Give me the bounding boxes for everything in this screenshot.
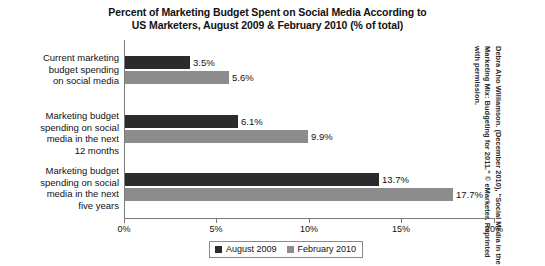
bar-value-august-2009-next-12-months: 6.1% <box>241 115 263 128</box>
bar-value-august-2009-next-five-years: 13.7% <box>382 173 409 186</box>
category-label-line: Marketing budget <box>4 110 119 122</box>
legend-swatch-icon-february-2010 <box>287 246 294 253</box>
x-tick-mark-10 <box>309 219 310 223</box>
chart-legend: August 2009 February 2010 <box>209 241 363 258</box>
bar-value-august-2009-current: 3.5% <box>193 56 215 69</box>
bar-february-2010-next-12-months <box>125 130 308 143</box>
x-tick-label-15: 15% <box>392 224 410 234</box>
x-tick-label-0: 0% <box>117 224 130 234</box>
category-label-line: five years <box>4 200 119 212</box>
legend-swatch-icon-august-2009 <box>215 246 222 253</box>
category-label-line: on social media <box>4 75 119 87</box>
source-note-line-3: with permission. <box>472 46 483 251</box>
source-attribution-note: Debra Aho Williamson. (December 2010), "… <box>469 46 503 251</box>
chart-title-line-1: Percent of Marketing Budget Spent on Soc… <box>40 6 495 19</box>
legend-label-august-2009: August 2009 <box>226 244 277 255</box>
bar-february-2010-current <box>125 71 229 84</box>
category-label-next-five-years: Marketing budget spending on social medi… <box>4 165 119 211</box>
source-note-line-1: Debra Aho Williamson. (December 2010), "… <box>493 46 504 251</box>
category-label-line: spending on social <box>4 122 119 134</box>
bar-february-2010-next-five-years <box>125 188 453 201</box>
category-label-line: 12 months <box>4 145 119 157</box>
category-label-line: Current marketing <box>4 52 119 64</box>
x-tick-label-5: 5% <box>209 224 222 234</box>
category-label-current-marketing: Current marketing budget spending on soc… <box>4 52 119 87</box>
category-label-next-12-months: Marketing budget spending on social medi… <box>4 110 119 156</box>
legend-label-february-2010: February 2010 <box>298 244 357 255</box>
bar-august-2009-next-12-months <box>125 115 238 128</box>
category-label-line: budget spending <box>4 64 119 76</box>
bar-value-february-2010-current: 5.6% <box>232 71 254 84</box>
chart-title-line-2: US Marketers, August 2009 & February 201… <box>40 19 495 32</box>
category-label-line: Marketing budget <box>4 165 119 177</box>
x-tick-label-10: 10% <box>300 224 318 234</box>
legend-item-august-2009: August 2009 <box>215 244 277 255</box>
category-label-line: media in the next <box>4 188 119 200</box>
social-media-budget-bar-chart: Percent of Marketing Budget Spent on Soc… <box>0 0 545 266</box>
category-label-line: media in the next <box>4 133 119 145</box>
bar-august-2009-next-five-years <box>125 173 379 186</box>
source-note-line-2: Marketing Mix: Budgeting for 2011." © eM… <box>482 46 493 251</box>
x-tick-mark-15 <box>401 219 402 223</box>
legend-item-february-2010: February 2010 <box>287 244 357 255</box>
bar-august-2009-current <box>125 56 190 69</box>
x-tick-mark-0 <box>124 219 125 223</box>
chart-title: Percent of Marketing Budget Spent on Soc… <box>40 6 495 32</box>
x-tick-mark-5 <box>216 219 217 223</box>
category-label-line: spending on social <box>4 177 119 189</box>
bar-value-february-2010-next-12-months: 9.9% <box>311 130 333 143</box>
